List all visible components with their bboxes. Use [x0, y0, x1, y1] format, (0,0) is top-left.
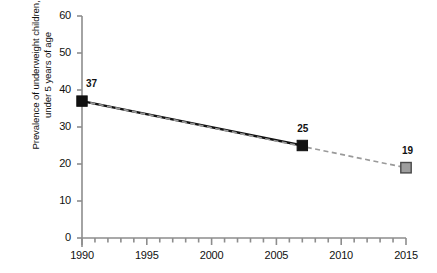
x-axis-tick-label: 1990 — [60, 250, 104, 261]
y-axis-tick-label: 60 — [49, 10, 71, 21]
data-point-marker-2015 — [401, 163, 411, 173]
y-axis-tick-label: 0 — [49, 232, 71, 243]
x-axis-tick-label: 2010 — [319, 250, 363, 261]
x-axis-tick-label: 1995 — [125, 250, 169, 261]
data-point-marker-1990 — [77, 96, 87, 106]
y-axis-tick-label: 40 — [49, 84, 71, 95]
y-axis-tick-label: 30 — [49, 121, 71, 132]
y-axis-tick-label: 20 — [49, 158, 71, 169]
chart-container: Prevalence of underweight children, unde… — [0, 0, 437, 273]
data-point-marker-2007 — [297, 140, 307, 150]
x-axis-tick-label: 2000 — [190, 250, 234, 261]
x-axis-tick-label: 2015 — [384, 250, 428, 261]
y-axis-tick-label: 50 — [49, 47, 71, 58]
data-point-value-label-2015: 19 — [402, 146, 413, 156]
x-axis-tick-label: 2005 — [254, 250, 298, 261]
y-axis-tick-label: 10 — [49, 195, 71, 206]
data-point-value-label-1990: 37 — [86, 79, 97, 89]
data-point-value-label-2007: 25 — [297, 124, 308, 134]
